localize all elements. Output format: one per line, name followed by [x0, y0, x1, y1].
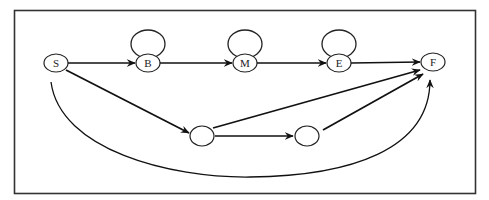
node-m-label: M	[240, 57, 250, 69]
node-b: B	[136, 54, 160, 72]
edge-s-x1	[66, 70, 189, 133]
diagram-frame	[15, 11, 476, 194]
node-f: F	[421, 53, 445, 71]
node-s: S	[44, 54, 68, 72]
node-e-label: E	[336, 57, 343, 69]
node-unlabeled-1	[190, 126, 214, 146]
edge-x1-f	[213, 70, 420, 128]
node-e: E	[327, 54, 351, 72]
node-s-label: S	[53, 57, 59, 69]
edge-s-f-curved	[51, 80, 430, 177]
edge-e-f	[351, 62, 420, 63]
node-b-label: B	[144, 57, 151, 69]
node-f-label: F	[430, 56, 436, 68]
state-diagram: S B M E F	[0, 0, 489, 200]
node-unlabeled-2	[295, 126, 319, 146]
node-m: M	[233, 54, 257, 72]
